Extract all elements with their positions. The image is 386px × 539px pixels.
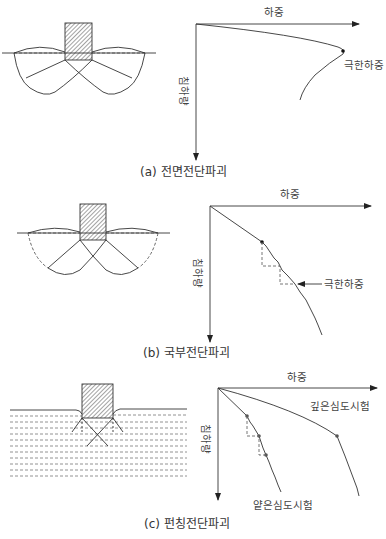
load-settlement-curve-b [210, 206, 322, 335]
x-axis-label-a: 하중 [264, 7, 284, 18]
deep-test-label: 깊은심도시험 [310, 401, 370, 412]
y-axis-label-c: 침하량 [201, 424, 212, 454]
y-axis-label-b: 침하량 [193, 258, 204, 288]
footing-b [80, 204, 106, 240]
ultimate-point-a [341, 49, 345, 53]
caption-a: (a) 전면전단파괴 [140, 166, 227, 178]
panel-b-chart [210, 206, 371, 342]
footing-a [65, 23, 92, 60]
y-axis-label-a: 침하량 [179, 76, 190, 106]
panel-b-soil-section [17, 204, 170, 275]
ultimate-load-label-b: 극한하중 [324, 279, 364, 290]
panel-a-soil-section [2, 23, 156, 94]
x-axis-label-b: 하중 [280, 189, 300, 200]
footing-c [82, 384, 113, 418]
panel-c-soil-section [10, 384, 187, 476]
load-settlement-curve-a [196, 24, 344, 100]
soil-layers [10, 415, 187, 476]
caption-c: (c) 펀칭전단파괴 [144, 518, 230, 530]
bearing-failure-diagram: 하중 침하량 극한하중 (a) 전면전단파괴 하중 침하량 극한하중 (b) 국… [0, 0, 386, 539]
panel-a-chart [196, 24, 359, 160]
shallow-test-label: 얕은심도시험 [253, 500, 313, 511]
ultimate-load-label-a: 극한하중 [344, 60, 384, 71]
shallow-test-curve [218, 388, 281, 492]
caption-b: (b) 국부전단파괴 [143, 347, 230, 359]
x-axis-label-c: 하중 [287, 372, 307, 383]
